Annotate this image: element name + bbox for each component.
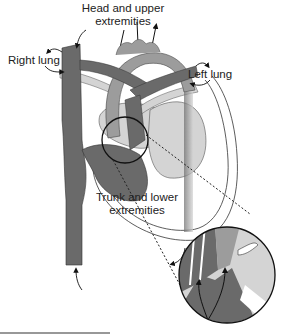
- label-head-line1: Head and upper: [68, 2, 178, 15]
- magnified-inset: [175, 225, 285, 330]
- label-trunk-line2: extremities: [82, 204, 192, 217]
- heart-illustration: [0, 0, 288, 335]
- label-head: Head and upper extremities: [68, 2, 178, 28]
- label-right-lung: Right lung: [8, 54, 60, 67]
- label-trunk-line1: Trunk and lower: [82, 191, 192, 204]
- label-left-lung: Left lung: [188, 68, 232, 81]
- fetal-circulation-diagram: Head and upper extremities Right lung Le…: [0, 0, 288, 335]
- label-head-line2: extremities: [68, 15, 178, 28]
- left-ventricle: [148, 102, 206, 178]
- label-trunk: Trunk and lower extremities: [82, 191, 192, 217]
